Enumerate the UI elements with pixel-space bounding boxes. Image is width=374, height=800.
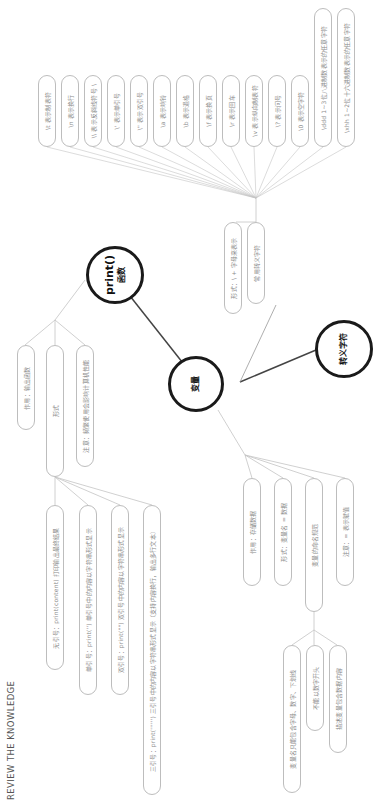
node-label: 注意：频繁使用会影响计算机性能 bbox=[81, 360, 90, 453]
node-label: 形式 bbox=[51, 405, 60, 417]
node-label: \? 表示问号 bbox=[273, 95, 282, 128]
node-label: \f 表示换页 bbox=[204, 95, 213, 126]
node-label: 无引号：print(content) 打印输出最终结果 bbox=[51, 527, 60, 648]
naming-rule-no-digit-node[interactable]: 不能以数字开头 bbox=[306, 645, 324, 731]
variable-note-node[interactable]: 注意：= 表示赋值 bbox=[336, 478, 354, 586]
form-double-quote-node[interactable]: 双引号：print("") 双引号中的内容以字符串形式显示 bbox=[111, 505, 129, 695]
form-single-quote-node[interactable]: 单引号：print('') 单引号中的内容以字符串形式显示 bbox=[79, 505, 97, 695]
node-label: 常用转义字符 bbox=[252, 244, 261, 281]
review-knowledge-label: REVIEW THE KNOWLEDGE bbox=[6, 690, 16, 800]
escape-item-backspace[interactable]: \b 表示退格 bbox=[176, 75, 194, 147]
escape-item-double-quote[interactable]: \" 表示双引号 bbox=[130, 75, 148, 147]
print-purpose-node[interactable]: 作用：输出函数 bbox=[17, 345, 35, 430]
variable-node[interactable]: 变量 bbox=[168, 356, 224, 412]
print-node-subtitle: 函数 bbox=[117, 255, 126, 295]
escape-node-label: 转义字符 bbox=[339, 333, 348, 365]
escape-item-backslash[interactable]: \\ 表示反斜线符号 \ bbox=[84, 75, 102, 147]
escape-item-bell[interactable]: \a 表示响铃 bbox=[153, 75, 171, 147]
node-label: \0 表示空字符 bbox=[296, 91, 305, 130]
node-label: \t 表示制表符 bbox=[43, 92, 52, 130]
escape-item-question[interactable]: \? 表示问号 bbox=[268, 75, 286, 147]
print-form-node[interactable]: 形式 bbox=[46, 345, 64, 477]
node-label: \' 表示单引号 bbox=[112, 92, 121, 129]
escape-item-single-quote[interactable]: \' 表示单引号 bbox=[107, 75, 125, 147]
node-label: \xhh 1~2位十六进制数表示的任意字符 bbox=[342, 23, 351, 133]
form-triple-quote-node[interactable]: 三引号：print('''''') 三引号中的内容以字符串形式显示（支持内容换行… bbox=[143, 505, 161, 795]
escape-char-node[interactable]: 转义字符 bbox=[315, 320, 373, 378]
node-label: 三引号：print('''''') 三引号中的内容以字符串形式显示（支持内容换行… bbox=[148, 528, 157, 772]
node-label: \r 表示回车 bbox=[227, 95, 236, 127]
print-function-node[interactable]: print() 函数 bbox=[86, 246, 144, 304]
node-label: 注意：= 表示赋值 bbox=[341, 507, 350, 558]
form-no-quote-node[interactable]: 无引号：print(content) 打印输出最终结果 bbox=[46, 505, 64, 670]
node-label: \v 表示纵向制表符 bbox=[250, 85, 259, 136]
node-label: \a 表示响铃 bbox=[158, 94, 167, 127]
node-label: 不能以数字开头 bbox=[311, 666, 320, 709]
variable-naming-node[interactable]: 变量的命名规范 bbox=[305, 478, 323, 612]
node-label: 变量名只能包含字母、数字、下划线 bbox=[288, 669, 297, 768]
escape-item-formfeed[interactable]: \f 表示换页 bbox=[199, 75, 217, 147]
node-label: 描述变量包含数据内容 bbox=[334, 668, 343, 730]
escape-item-octal[interactable]: \ddd 1~3位八进制数表示的任意字符 bbox=[314, 8, 332, 147]
node-label: 单引号：print('') 单引号中的内容以字符串形式显示 bbox=[84, 528, 93, 672]
variable-form-node[interactable]: 形式：变量名 = 数据 bbox=[274, 478, 292, 586]
escape-item-null[interactable]: \0 表示空字符 bbox=[291, 75, 309, 147]
variable-node-label: 变量 bbox=[191, 376, 200, 392]
escape-item-hex[interactable]: \xhh 1~2位十六进制数表示的任意字符 bbox=[337, 8, 355, 147]
node-label: \\ 表示反斜线符号 \ bbox=[89, 84, 98, 138]
escape-item-vertical-tab[interactable]: \v 表示纵向制表符 bbox=[245, 75, 263, 147]
escape-item-carriage-return[interactable]: \r 表示回车 bbox=[222, 75, 240, 147]
naming-rule-chars-node[interactable]: 变量名只能包含字母、数字、下划线 bbox=[283, 645, 301, 793]
escape-form-node[interactable]: 形式：\ + 字母来表示 bbox=[224, 222, 242, 314]
node-label: \" 表示双引号 bbox=[135, 92, 144, 130]
node-label: \n 表示换行 bbox=[66, 94, 75, 127]
print-node-title: print() bbox=[104, 255, 117, 295]
print-note-node[interactable]: 注意：频繁使用会影响计算机性能 bbox=[76, 345, 94, 467]
naming-rule-descriptive-node[interactable]: 描述变量包含数据内容 bbox=[329, 645, 347, 753]
escape-item-tab[interactable]: \t 表示制表符 bbox=[38, 75, 56, 147]
node-label: 形式：变量名 = 数据 bbox=[279, 502, 288, 561]
node-label: \ddd 1~3位八进制数表示的任意字符 bbox=[319, 25, 328, 129]
escape-item-newline[interactable]: \n 表示换行 bbox=[61, 75, 79, 147]
node-label: 作用：存储数据 bbox=[248, 510, 257, 553]
node-label: 形式：\ + 字母来表示 bbox=[229, 237, 238, 298]
escape-common-node[interactable]: 常用转义字符 bbox=[247, 222, 265, 304]
variable-purpose-node[interactable]: 作用：存储数据 bbox=[243, 478, 261, 586]
node-label: 双引号：print("") 双引号中的内容以字符串形式显示 bbox=[116, 527, 125, 673]
node-label: \b 表示退格 bbox=[181, 94, 190, 127]
node-label: 作用：输出函数 bbox=[22, 366, 31, 409]
node-label: 变量的命名规范 bbox=[310, 523, 319, 566]
